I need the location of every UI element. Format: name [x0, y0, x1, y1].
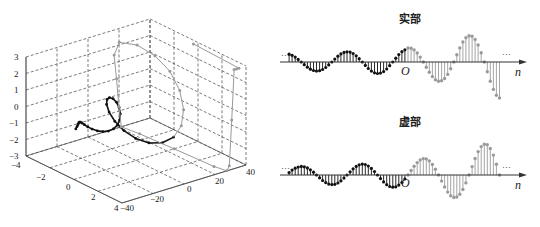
stem-marker: [443, 77, 446, 80]
stem-marker: [288, 171, 291, 174]
x-tick-m2: −2: [36, 172, 46, 182]
helix-segment: [180, 91, 184, 110]
stem-marker: [291, 169, 294, 172]
helix-segment: [114, 55, 116, 79]
stem-marker: [355, 165, 358, 168]
stem-marker: [309, 68, 312, 71]
stem-marker: [309, 168, 312, 171]
stem-marker: [379, 177, 382, 180]
stem-marker: [443, 185, 446, 188]
stem-marker: [358, 57, 361, 60]
stem-marker: [297, 165, 300, 168]
stem-marker: [352, 52, 355, 55]
stem-marker: [370, 70, 373, 73]
stem-marker: [498, 96, 501, 99]
stem-marker: [492, 153, 495, 156]
helix-point: [192, 42, 195, 45]
stem-marker: [382, 180, 385, 183]
stem-marker: [437, 80, 440, 83]
stem-marker: [382, 70, 385, 73]
stem-marker: [446, 73, 449, 76]
stem-marker: [391, 186, 394, 189]
stem-marker: [449, 67, 452, 70]
stem-marker: [352, 167, 355, 170]
stem-marker: [394, 185, 397, 188]
stem-marker: [473, 157, 476, 160]
stem-marker: [303, 165, 306, 168]
stem-marker: [306, 66, 309, 69]
imag-stems: [288, 143, 502, 200]
stem-marker: [434, 168, 437, 171]
stem-marker: [385, 67, 388, 70]
stem-marker: [480, 51, 483, 54]
x-tick-4: 4: [114, 203, 119, 213]
stem-marker: [464, 36, 467, 39]
stem-marker: [425, 66, 428, 69]
helix-segment: [119, 42, 137, 45]
helix-segment: [214, 166, 227, 170]
stem-marker: [403, 48, 406, 51]
x-tick-m4: −4: [11, 160, 21, 170]
stem-marker: [327, 183, 330, 186]
stem-marker: [349, 51, 352, 54]
helix-segment: [193, 44, 239, 68]
stem-marker: [324, 66, 327, 69]
stem-marker: [339, 179, 342, 182]
stem-marker: [409, 47, 412, 50]
z-tick-3: 3: [14, 52, 19, 62]
stem-marker: [458, 46, 461, 49]
stem-marker: [406, 46, 409, 49]
real-axis-arrow: [519, 60, 527, 65]
stem-marker: [419, 55, 422, 58]
stem-marker: [495, 94, 498, 97]
stem-marker: [394, 57, 397, 60]
helix-segment: [229, 120, 231, 166]
real-n-label: n: [515, 65, 521, 79]
real-part-title: 实部: [399, 12, 421, 26]
stem-marker: [345, 50, 348, 53]
stem-marker: [303, 63, 306, 66]
stem-marker: [367, 164, 370, 167]
stem-marker: [358, 163, 361, 166]
grid-line: [88, 137, 184, 184]
stem-marker: [492, 88, 495, 91]
stem-marker: [400, 50, 403, 53]
real-part-plot: 实部 ··· ··· O n: [280, 12, 527, 100]
stem-marker: [397, 184, 400, 187]
stem-marker: [349, 170, 352, 173]
helix-segment: [137, 45, 155, 56]
z-tick-0: 0: [14, 102, 19, 112]
real-origin-label: O: [401, 64, 410, 78]
stem-marker: [388, 185, 391, 188]
stem-marker: [300, 165, 303, 168]
stem-marker: [379, 72, 382, 75]
z-tick-2: 2: [14, 69, 19, 79]
stem-marker: [412, 48, 415, 51]
grid-line: [74, 142, 198, 180]
helix-segment: [109, 112, 115, 121]
imag-part-plot: 虚部 ··· ··· O n: [280, 115, 527, 199]
y-tick-m40: −40: [120, 203, 135, 213]
stem-marker: [321, 179, 324, 182]
stem-marker: [324, 181, 327, 184]
stem-marker: [428, 159, 431, 162]
z-tick-1: 1: [14, 85, 19, 95]
stem-marker: [342, 51, 345, 54]
ellipsis-right: ···: [502, 162, 511, 172]
stem-marker: [470, 35, 473, 38]
stem-marker: [361, 163, 364, 166]
stem-marker: [318, 69, 321, 72]
stem-marker: [440, 179, 443, 182]
stem-marker: [455, 195, 458, 198]
stem-marker: [409, 169, 412, 172]
stem-marker: [330, 183, 333, 186]
x-tick-0: 0: [66, 182, 71, 192]
stem-marker: [291, 54, 294, 57]
helix-segment: [174, 126, 182, 137]
stem-marker: [431, 75, 434, 78]
stem-marker: [464, 181, 467, 184]
stem-marker: [297, 58, 300, 61]
imag-n-label: n: [515, 178, 521, 192]
stem-marker: [455, 53, 458, 56]
stem-marker: [385, 183, 388, 186]
